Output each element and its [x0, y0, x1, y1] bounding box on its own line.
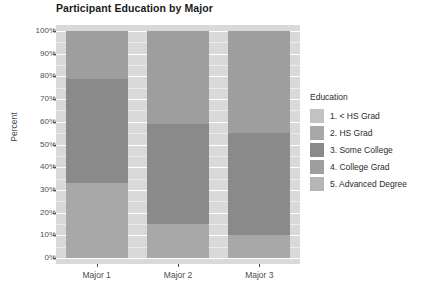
- y-axis-tick-mark: [53, 145, 56, 146]
- legend-item-label: 3. Some College: [330, 145, 393, 155]
- y-axis-tick-mark: [53, 190, 56, 191]
- bars-layer: [56, 25, 300, 264]
- legend-items: 1. < HS Grad2. HS Grad3. Some College4. …: [310, 108, 407, 192]
- bar-segment[interactable]: [228, 31, 290, 133]
- x-axis-tick-mark: [178, 264, 179, 267]
- legend-swatch-icon: [310, 177, 324, 191]
- legend-item-label: 4. College Grad: [330, 162, 390, 172]
- y-axis-tick-mark: [53, 31, 56, 32]
- bar-segment[interactable]: [66, 31, 128, 79]
- y-axis-tick-label: 50%: [10, 140, 56, 149]
- y-axis-tick-mark: [53, 99, 56, 100]
- y-axis-tick-mark: [53, 122, 56, 123]
- legend-item[interactable]: 5. Advanced Degree: [310, 176, 407, 192]
- y-axis-tick-label: 70%: [10, 94, 56, 103]
- legend-title: Education: [310, 92, 407, 102]
- x-axis-tick-label: Major 2: [138, 270, 218, 280]
- y-axis-tick-label: 10%: [10, 230, 56, 239]
- legend-item[interactable]: 2. HS Grad: [310, 125, 407, 141]
- legend-item-label: 5. Advanced Degree: [330, 179, 407, 189]
- x-axis-tick-label: Major 1: [57, 270, 137, 280]
- chart-container: Participant Education by Major Percent 0…: [0, 0, 430, 293]
- y-axis-tick-label: 0%: [10, 253, 56, 262]
- bar-segment[interactable]: [66, 183, 128, 258]
- y-axis-tick-mark: [53, 235, 56, 236]
- legend: Education 1. < HS Grad2. HS Grad3. Some …: [310, 92, 407, 193]
- legend-item[interactable]: 4. College Grad: [310, 159, 407, 175]
- legend-swatch-icon: [310, 109, 324, 123]
- legend-swatch-icon: [310, 160, 324, 174]
- bar-segment[interactable]: [147, 31, 209, 124]
- bar-segment[interactable]: [228, 235, 290, 258]
- y-axis-tick-mark: [53, 167, 56, 168]
- legend-swatch-icon: [310, 143, 324, 157]
- y-axis-tick-label: 30%: [10, 185, 56, 194]
- y-axis-tick-mark: [53, 258, 56, 259]
- plot-panel: [56, 25, 300, 264]
- legend-swatch-icon: [310, 126, 324, 140]
- y-axis-tick-mark: [53, 54, 56, 55]
- legend-item[interactable]: 3. Some College: [310, 142, 407, 158]
- y-axis-tick-mark: [53, 213, 56, 214]
- chart-title: Participant Education by Major: [56, 2, 213, 14]
- legend-item-label: 1. < HS Grad: [330, 111, 380, 121]
- bar-segment[interactable]: [147, 124, 209, 224]
- legend-item[interactable]: 1. < HS Grad: [310, 108, 407, 124]
- legend-item-label: 2. HS Grad: [330, 128, 373, 138]
- y-axis-tick-label: 20%: [10, 208, 56, 217]
- y-axis-tick-label: 80%: [10, 71, 56, 80]
- x-axis-tick-mark: [97, 264, 98, 267]
- bar-segment[interactable]: [66, 79, 128, 183]
- x-axis-tick-mark: [259, 264, 260, 267]
- bar-stack[interactable]: [228, 31, 290, 258]
- bar-stack[interactable]: [66, 31, 128, 258]
- bar-segment[interactable]: [147, 224, 209, 258]
- y-axis-tick-label: 100%: [10, 26, 56, 35]
- y-axis-tick-label: 60%: [10, 117, 56, 126]
- bar-segment[interactable]: [228, 133, 290, 235]
- bar-stack[interactable]: [147, 31, 209, 258]
- x-axis-tick-label: Major 3: [219, 270, 299, 280]
- y-axis-tick-mark: [53, 76, 56, 77]
- y-axis-tick-label: 90%: [10, 49, 56, 58]
- y-axis-tick-label: 40%: [10, 162, 56, 171]
